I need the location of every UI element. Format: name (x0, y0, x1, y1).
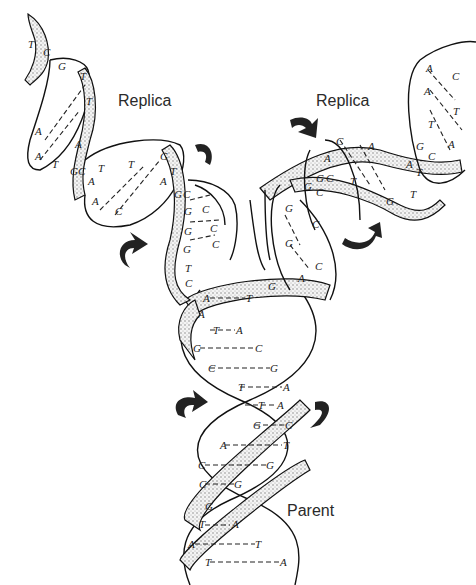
svg-text:G: G (70, 165, 78, 177)
svg-text:G: G (316, 172, 324, 184)
svg-text:A: A (187, 538, 195, 550)
svg-text:G: G (416, 140, 424, 152)
svg-text:T: T (128, 158, 135, 170)
rotation-arrow-parent-left (176, 390, 208, 418)
svg-text:C: C (316, 186, 324, 198)
svg-text:C: C (198, 459, 206, 471)
svg-text:G: G (234, 478, 242, 490)
dna-replication-diagram: AT A TA GC CG TA TA GC AT CG CG G TA AT … (0, 0, 476, 585)
dna-helix-illustration: AT A TA GC CG TA TA GC AT CG CG G TA AT … (0, 0, 476, 585)
svg-text:G: G (205, 500, 213, 512)
svg-text:A: A (276, 399, 284, 411)
svg-text:C: C (212, 238, 220, 250)
svg-text:T: T (453, 105, 460, 117)
svg-text:G: G (386, 195, 394, 207)
svg-text:T: T (213, 324, 220, 336)
left-replica-helix: TCG TT AAT AGC AT TG AC AT GC GC GC GC T… (25, 14, 237, 305)
svg-text:A: A (34, 125, 42, 137)
svg-text:C: C (199, 478, 207, 490)
svg-text:A: A (279, 556, 287, 568)
svg-text:C: C (312, 218, 320, 230)
replica-left-label: Replica (118, 92, 171, 110)
svg-text:A: A (235, 324, 243, 336)
svg-text:A: A (74, 138, 82, 150)
svg-text:T: T (283, 439, 290, 451)
svg-text:A: A (323, 152, 331, 164)
svg-text:G: G (184, 205, 192, 217)
svg-text:T: T (238, 381, 245, 393)
svg-text:T: T (199, 518, 206, 530)
replica-right-label: Replica (316, 92, 369, 110)
svg-text:T: T (185, 262, 192, 274)
svg-text:G: G (193, 342, 201, 354)
parent-label: Parent (287, 502, 334, 520)
svg-text:T: T (428, 118, 435, 130)
svg-text:A: A (367, 140, 375, 152)
svg-text:G: G (266, 459, 274, 471)
svg-text:C: C (336, 135, 344, 147)
svg-text:A: A (297, 272, 305, 284)
rotation-arrow-right-replica (290, 117, 318, 138)
svg-text:T: T (28, 38, 35, 50)
svg-text:T: T (52, 158, 59, 170)
svg-text:G: G (174, 188, 182, 200)
svg-text:A: A (425, 62, 433, 74)
svg-text:A: A (423, 85, 431, 97)
svg-text:C: C (428, 150, 436, 162)
svg-text:T: T (410, 188, 417, 200)
svg-text:T: T (205, 556, 212, 568)
rotation-arrow-parent-right (310, 401, 329, 428)
svg-text:G: G (304, 180, 312, 192)
svg-text:G: G (183, 243, 191, 255)
svg-text:C: C (285, 419, 293, 431)
svg-text:A: A (202, 292, 210, 304)
rotation-arrow-left-replica (120, 232, 148, 268)
svg-text:A: A (231, 518, 239, 530)
svg-text:A: A (282, 381, 290, 393)
svg-text:T: T (86, 95, 93, 107)
svg-text:C: C (208, 362, 216, 374)
svg-text:T: T (170, 165, 177, 177)
svg-text:A: A (87, 175, 95, 187)
svg-text:G: G (285, 202, 293, 214)
rotation-arrow-top-left (195, 144, 212, 165)
svg-text:A: A (159, 175, 167, 187)
svg-text:C: C (185, 277, 193, 289)
svg-text:A: A (197, 308, 205, 320)
rotation-arrow-right-lower (342, 222, 382, 249)
svg-text:C: C (78, 165, 86, 177)
parent-helix: AT A TA GC CG TA TA GC AT CG CG G TA AT … (179, 279, 330, 585)
svg-text:T: T (416, 166, 423, 178)
svg-text:C: C (255, 342, 263, 354)
svg-text:T: T (350, 175, 357, 187)
svg-text:G: G (285, 237, 293, 249)
svg-text:C: C (452, 70, 460, 82)
svg-text:C: C (210, 222, 218, 234)
svg-text:T: T (258, 399, 265, 411)
svg-text:G: G (253, 419, 261, 431)
svg-text:G: G (270, 362, 278, 374)
svg-text:T: T (246, 292, 253, 304)
svg-text:G: G (160, 150, 168, 162)
svg-text:A: A (219, 439, 227, 451)
svg-text:G: G (58, 60, 66, 72)
svg-text:T: T (98, 162, 105, 174)
svg-text:C: C (326, 172, 334, 184)
svg-text:G: G (184, 225, 192, 237)
svg-text:C: C (202, 203, 210, 215)
svg-text:C: C (43, 46, 51, 58)
svg-text:A: A (405, 158, 413, 170)
svg-text:A: A (34, 150, 42, 162)
svg-text:C: C (315, 260, 323, 272)
svg-text:C: C (115, 205, 123, 217)
right-replica-helix: AC AT TA GC AT TG CA AT GC GC GC GC AG (250, 42, 476, 300)
svg-text:G: G (268, 280, 276, 292)
svg-text:A: A (91, 195, 99, 207)
svg-text:A: A (447, 138, 455, 150)
svg-text:C: C (183, 188, 191, 200)
svg-text:T: T (255, 538, 262, 550)
svg-text:T: T (80, 70, 87, 82)
